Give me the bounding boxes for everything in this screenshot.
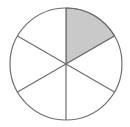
fraction-circle-figure xyxy=(0,0,130,127)
circle-diagram-canvas xyxy=(0,0,130,127)
